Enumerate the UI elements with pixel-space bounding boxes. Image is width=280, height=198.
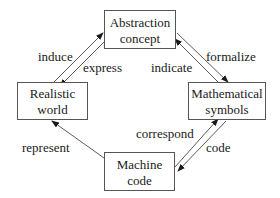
node-realistic-world: Realistic world bbox=[18, 83, 88, 120]
node-label-line1: Realistic bbox=[30, 86, 76, 101]
edge-label-represent: represent bbox=[22, 140, 70, 155]
edge-label-express: express bbox=[83, 60, 122, 75]
edge-label-indicate: indicate bbox=[151, 60, 192, 75]
edge-label-code: code bbox=[206, 140, 231, 155]
node-label-line2: concept bbox=[120, 31, 161, 46]
edge-label-correspond: correspond bbox=[136, 126, 194, 141]
node-label-line2: code bbox=[127, 173, 152, 188]
node-label-line2: symbols bbox=[205, 102, 248, 117]
edge-label-induce: induce bbox=[38, 49, 73, 64]
node-machine-code: Machine code bbox=[105, 153, 175, 191]
concept-diagram: induce express indicate formalize corres… bbox=[0, 0, 280, 198]
node-label-line1: Machine bbox=[117, 157, 163, 172]
node-mathematical-symbols: Mathematical symbols bbox=[189, 83, 266, 120]
edge-label-formalize: formalize bbox=[206, 49, 256, 64]
node-label-line2: world bbox=[37, 102, 68, 117]
node-label-line1: Mathematical bbox=[191, 86, 263, 101]
node-abstraction-concept: Abstraction concept bbox=[105, 11, 176, 49]
node-label-line1: Abstraction bbox=[110, 15, 171, 30]
